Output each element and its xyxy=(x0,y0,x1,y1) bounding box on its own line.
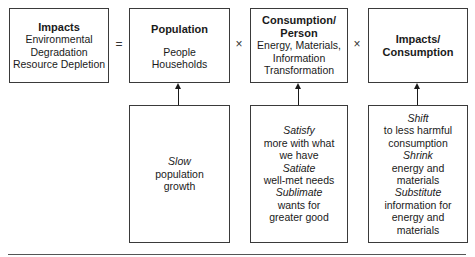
strategy-line: energy and xyxy=(392,211,445,223)
impacts-title: Impacts xyxy=(38,21,80,34)
strategy-line: population xyxy=(155,168,203,180)
strategy-line: energy and xyxy=(392,162,445,174)
consumption-title: Person xyxy=(280,27,317,40)
strategy-line: to less harmful xyxy=(384,124,452,136)
strategy-line: Shift xyxy=(407,112,428,124)
impacts-box: Impacts Environmental Degradation Resour… xyxy=(9,8,109,83)
consumption-strategy-box: Satisfy more with what we have Satiate w… xyxy=(250,105,348,243)
strategy-line: greater good xyxy=(269,211,329,223)
strategy-line: Substitute xyxy=(395,186,442,198)
strategy-line: materials xyxy=(397,174,440,186)
population-strategy-box: Slow population growth xyxy=(129,105,230,243)
impacts-per-consumption-box: Impacts/ Consumption xyxy=(368,8,468,83)
multiply-sign: × xyxy=(232,37,246,51)
arrow-line xyxy=(298,88,299,105)
consumption-line: Transformation xyxy=(264,64,334,76)
consumption-line: Energy, Materials, xyxy=(257,39,341,51)
arrow-up-icon xyxy=(295,83,301,89)
strategy-line: consumption xyxy=(388,137,448,149)
arrow-line xyxy=(417,88,418,105)
arrow-up-icon xyxy=(414,83,420,89)
consumption-per-person-box: Consumption/ Person Energy, Materials, I… xyxy=(250,8,348,83)
strategy-line: materials xyxy=(397,224,440,236)
consumption-line: Information xyxy=(273,52,326,64)
impacts-line: Degradation xyxy=(30,46,87,58)
impacts-line: Resource Depletion xyxy=(13,58,105,70)
strategy-line: more with what xyxy=(264,137,335,149)
strategy-line: wants for xyxy=(278,199,321,211)
strategy-line: Satisfy xyxy=(283,124,315,136)
impacts-consumption-title: Impacts/ xyxy=(396,33,441,46)
population-title: Population xyxy=(151,23,208,36)
impacts-line: Environmental xyxy=(25,33,92,45)
impact-strategy-box: Shift to less harmful consumption Shrink… xyxy=(368,105,468,243)
strategy-line: Satiate xyxy=(283,162,316,174)
population-line: Households xyxy=(152,58,207,70)
strategy-line: growth xyxy=(164,180,196,192)
impacts-consumption-title: Consumption xyxy=(383,46,454,59)
bottom-divider xyxy=(8,254,466,255)
equals-sign: = xyxy=(112,37,126,51)
population-line: People xyxy=(163,46,196,58)
consumption-title: Consumption/ xyxy=(262,14,336,27)
population-box: Population People Households xyxy=(129,8,230,83)
multiply-sign: × xyxy=(350,37,364,51)
strategy-line: information for xyxy=(384,199,451,211)
strategy-line: Sublimate xyxy=(276,186,323,198)
strategy-line: Slow xyxy=(168,155,191,167)
strategy-line: we have xyxy=(279,149,318,161)
arrow-up-icon xyxy=(175,83,181,89)
arrow-line xyxy=(178,88,179,105)
strategy-line: well-met needs xyxy=(264,174,335,186)
strategy-line: Shrink xyxy=(403,149,433,161)
